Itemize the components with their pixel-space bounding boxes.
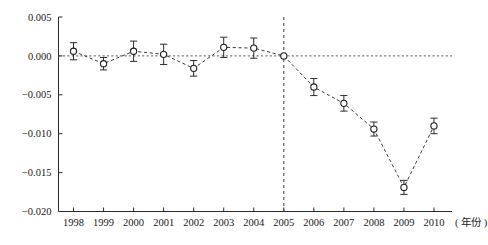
data-point-marker [431,123,437,129]
data-point-marker [70,48,76,54]
y-axis-tick-label: 0.000 [28,51,52,62]
y-axis-tick-label: −0.015 [22,167,52,178]
x-axis-tick-label: 2006 [303,217,324,228]
y-axis-tick-label: −0.020 [22,206,52,217]
y-axis-tick-label: −0.010 [22,128,52,139]
data-point-marker [221,44,227,50]
data-point-marker [191,65,197,71]
x-axis-tick-label: 2003 [213,217,234,228]
x-axis-tick-label: 2001 [153,217,174,228]
data-point-marker [341,100,347,106]
x-axis-tick-label: 2007 [333,217,354,228]
y-axis-tick-label: −0.005 [22,89,52,100]
y-axis-tick-label: 0.005 [28,12,52,23]
data-point-marker [311,84,317,90]
data-point-marker [100,61,106,67]
chart-container: 0.0050.000−0.005−0.010−0.015−0.020 19981… [0,0,488,245]
x-axis-tick-label: 2008 [363,217,384,228]
x-axis-tick-label: 2004 [243,217,265,228]
data-point-marker [401,184,407,190]
error-bar-line-chart: 0.0050.000−0.005−0.010−0.015−0.020 19981… [0,0,488,245]
x-axis-tick-label: 2000 [123,217,144,228]
x-axis-tick-label: 1999 [93,217,114,228]
x-axis-tick-label: 2002 [183,217,204,228]
x-axis-unit-label: ( 年份 ) [455,216,488,229]
data-point-marker [161,51,167,57]
data-point-marker [281,53,287,59]
x-axis-tick-label: 1998 [63,217,84,228]
x-axis-tick-label: 2010 [423,217,444,228]
data-point-marker [130,48,136,54]
x-axis-tick-label: 2005 [273,217,294,228]
data-point-marker [251,45,257,51]
data-point-marker [371,126,377,132]
x-axis-tick-label: 2009 [393,217,414,228]
